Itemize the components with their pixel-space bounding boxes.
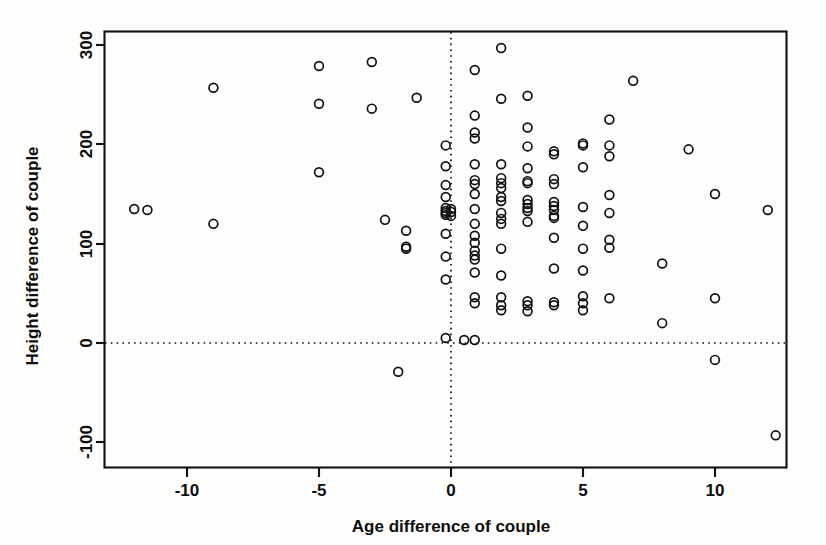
plot-frame — [105, 32, 787, 468]
data-point — [441, 181, 450, 190]
data-point — [130, 205, 139, 214]
data-point — [605, 209, 614, 218]
data-point — [523, 307, 532, 316]
data-point — [470, 219, 479, 228]
data-point — [497, 44, 506, 53]
data-point — [579, 163, 588, 172]
y-tick-label-300: 300 — [77, 31, 96, 59]
data-point — [441, 252, 450, 261]
y-tick-label-200: 200 — [77, 130, 96, 158]
data-point — [497, 94, 506, 103]
data-point — [497, 271, 506, 280]
data-point — [441, 141, 450, 150]
data-point — [460, 336, 469, 345]
y-axis-title: Height difference of couple — [23, 146, 42, 365]
x-tick-label-neg5: -5 — [311, 481, 326, 500]
data-point — [550, 264, 559, 273]
data-point — [381, 215, 390, 224]
y-tick-label-100: 100 — [77, 230, 96, 258]
x-tick-label-5: 5 — [578, 481, 587, 500]
data-point — [315, 168, 324, 177]
data-point — [605, 152, 614, 161]
data-point — [412, 93, 421, 102]
data-point — [579, 221, 588, 230]
data-point — [771, 431, 780, 440]
data-point — [579, 266, 588, 275]
data-point — [394, 367, 403, 376]
data-point — [315, 99, 324, 108]
data-point — [523, 142, 532, 151]
x-tick-label-neg10: -10 — [175, 481, 200, 500]
data-point — [605, 141, 614, 150]
data-point — [470, 336, 479, 345]
x-axis-title: Age difference of couple — [352, 517, 550, 536]
data-point — [367, 104, 376, 113]
data-point — [367, 58, 376, 67]
data-point — [550, 233, 559, 242]
data-point — [684, 145, 693, 154]
data-point — [441, 229, 450, 238]
data-point — [711, 355, 720, 364]
data-point — [605, 294, 614, 303]
data-point — [579, 244, 588, 253]
data-point — [315, 62, 324, 71]
data-point — [579, 203, 588, 212]
data-point — [470, 111, 479, 120]
data-point — [441, 193, 450, 202]
data-point — [470, 205, 479, 214]
data-point — [441, 162, 450, 171]
y-tick-label-neg100: -100 — [77, 425, 96, 459]
data-point — [711, 190, 720, 199]
data-points-layer — [130, 44, 780, 440]
data-point — [143, 206, 152, 215]
x-tick-label-0: 0 — [446, 481, 455, 500]
data-point — [441, 275, 450, 284]
data-point — [470, 268, 479, 277]
data-point — [470, 190, 479, 199]
data-point — [658, 319, 667, 328]
data-point — [605, 191, 614, 200]
data-point — [658, 259, 667, 268]
x-tick-label-10: 10 — [706, 481, 725, 500]
data-point — [523, 91, 532, 100]
data-point — [605, 115, 614, 124]
data-point — [470, 299, 479, 308]
data-point — [209, 83, 218, 92]
data-point — [209, 219, 218, 228]
data-point — [470, 134, 479, 143]
data-point — [470, 66, 479, 75]
data-point — [629, 76, 638, 85]
data-point — [402, 226, 411, 235]
data-point — [497, 244, 506, 253]
y-axis-tick-labels: 300 200 100 0 -100 — [77, 31, 96, 459]
data-point — [470, 160, 479, 169]
x-axis-tick-labels: -10 -5 0 5 10 — [175, 481, 725, 500]
data-point — [523, 164, 532, 173]
plot-canvas: 300 200 100 0 -100 -10 -5 0 5 10 Age dif… — [0, 0, 826, 545]
data-point — [497, 160, 506, 169]
y-tick-label-0: 0 — [77, 338, 96, 347]
data-point — [711, 294, 720, 303]
data-point — [523, 123, 532, 132]
data-point — [441, 334, 450, 343]
scatter-plot-figure: 300 200 100 0 -100 -10 -5 0 5 10 Age dif… — [0, 0, 826, 545]
data-point — [763, 206, 772, 215]
data-point — [523, 217, 532, 226]
